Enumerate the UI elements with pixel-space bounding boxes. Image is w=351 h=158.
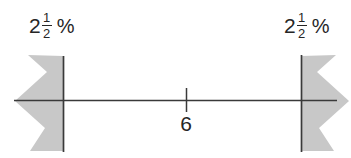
left-tail-fraction-numerator: 1 bbox=[42, 11, 51, 25]
right-tail-whole-number: 2 bbox=[284, 15, 296, 36]
right-tail-percent-sign: % bbox=[312, 16, 330, 36]
left-tail-percent-sign: % bbox=[57, 16, 75, 36]
right-tail-fraction: 1 2 bbox=[297, 11, 307, 41]
right-tail-fraction-denominator: 2 bbox=[297, 26, 306, 40]
right-tail-fraction-numerator: 1 bbox=[297, 11, 306, 25]
center-value-label: 6 bbox=[170, 113, 202, 134]
left-tail-shaded-region bbox=[15, 55, 63, 151]
left-tail-whole-number: 2 bbox=[29, 15, 41, 36]
statistics-tails-diagram: 2 1 2 % 2 1 2 % 6 bbox=[0, 0, 351, 158]
right-tail-shaded-region bbox=[301, 55, 349, 151]
left-tail-fraction: 1 2 bbox=[42, 11, 52, 41]
left-tail-fraction-denominator: 2 bbox=[42, 26, 51, 40]
right-tail-percent-label: 2 1 2 % bbox=[284, 11, 329, 41]
left-tail-percent-label: 2 1 2 % bbox=[29, 11, 74, 41]
